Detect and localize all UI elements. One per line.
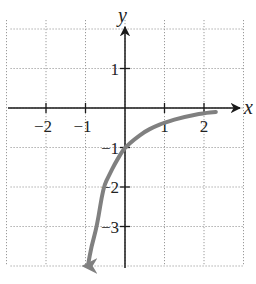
x-tick-label: −2: [34, 117, 52, 136]
y-tick-label: −1: [101, 139, 119, 158]
y-tick-label: −3: [101, 218, 119, 237]
chart: −2−1121−1−2−3 x y: [0, 0, 256, 284]
x-tick-label: −1: [73, 117, 91, 136]
x-axis-label: x: [243, 96, 253, 118]
x-tick-label: 2: [200, 117, 209, 136]
y-tick-label: 1: [111, 60, 120, 79]
y-axis-label: y: [116, 4, 127, 27]
